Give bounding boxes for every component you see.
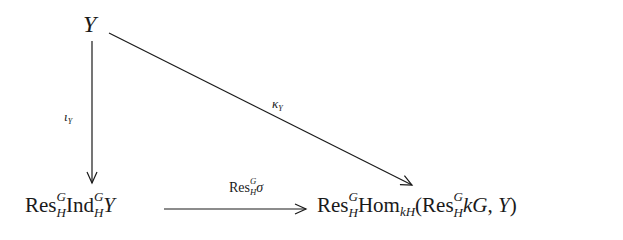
label-sigma: σ <box>256 180 263 195</box>
res-scripts: GH <box>349 194 358 220</box>
ind-sub: H <box>94 206 103 219</box>
node-y-text: Y <box>83 11 96 37</box>
close-paren: ) <box>510 193 517 217</box>
node-res-hom: ResGHHomkH(ResGHkG, Y) <box>317 194 517 220</box>
comma: , <box>488 193 493 217</box>
label-res-sigma: ResGHσ <box>229 180 263 197</box>
ind-scripts: GH <box>94 194 103 220</box>
inner-res-text: Res <box>422 193 454 217</box>
hom-text: Hom <box>358 193 400 217</box>
ind-sup: G <box>94 190 103 203</box>
label-res-sub: H <box>250 188 256 197</box>
kappa-subscript: Y <box>278 104 282 113</box>
arrow-kappa <box>109 33 412 185</box>
label-iota-y: ιY <box>64 110 72 123</box>
res-text: Res <box>317 193 349 217</box>
res-sup: G <box>349 190 358 203</box>
label-res: Res <box>229 180 250 195</box>
res-sub: H <box>349 206 358 219</box>
ind-text: Ind <box>66 193 94 217</box>
res-sup: G <box>57 190 66 203</box>
iota-subscript: Y <box>68 117 72 126</box>
res-text: Res <box>25 193 57 217</box>
node-res-ind-y: ResGHIndGHY <box>25 194 115 220</box>
inner-res-scripts: GH <box>454 194 463 220</box>
label-res-sup: G <box>250 177 256 186</box>
label-res-scripts: GH <box>250 180 256 197</box>
hom-sub: kH <box>400 204 415 219</box>
inner-res-sup: G <box>454 190 463 203</box>
node-y: Y <box>83 12 96 36</box>
inner-res-sub: H <box>454 206 463 219</box>
res-scripts: GH <box>57 194 66 220</box>
res-sub: H <box>57 206 66 219</box>
label-kappa-y: κY <box>272 97 283 110</box>
obj-y: Y <box>103 193 115 217</box>
obj-y: Y <box>498 193 510 217</box>
inner-obj-kg: kG <box>463 193 488 217</box>
